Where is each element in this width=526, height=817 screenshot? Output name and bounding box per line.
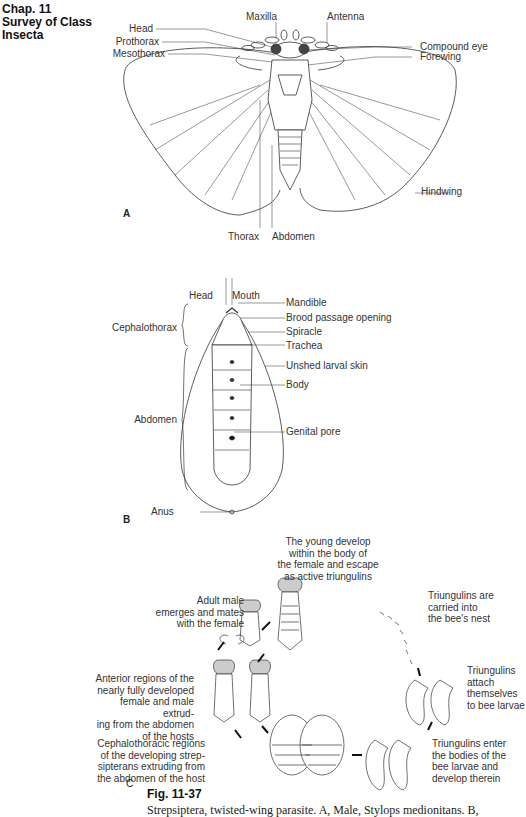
label-prothorax: Prothorax	[80, 36, 159, 48]
label-abdomen-b: Abdomen	[100, 414, 177, 426]
note-young-develop: The young develop within the body of the…	[268, 536, 388, 582]
female-insect-drawing	[181, 278, 285, 514]
note-triungulins-enter: Triungulins enter the bodies of the bee …	[432, 738, 526, 784]
label-cephalothorax: Cephalothorax	[100, 322, 177, 334]
label-head-a: Head	[100, 23, 153, 35]
note-attach: Triungulins attach themselves to bee lar…	[467, 665, 526, 711]
label-thorax: Thorax	[228, 231, 259, 243]
panel-letter-a: A	[123, 208, 130, 219]
label-mandible: Mandible	[286, 297, 327, 309]
label-body: Body	[286, 379, 309, 391]
figure-illustration	[0, 0, 526, 817]
figure-number: Fig. 11-37	[147, 787, 202, 801]
panel-letter-b: B	[123, 514, 130, 525]
label-spiracle: Spiracle	[286, 326, 322, 338]
label-unshed-larval-skin: Unshed larval skin	[286, 360, 368, 372]
label-mouth: Mouth	[232, 290, 260, 302]
label-antenna: Antenna	[327, 11, 364, 23]
note-anterior-regions: Anterior regions of the nearly fully dev…	[88, 673, 194, 742]
note-cephalothoracic: Cephalothoracic regions of the developin…	[85, 738, 205, 784]
label-forewing: Forewing	[420, 51, 461, 63]
label-anus: Anus	[151, 506, 174, 518]
label-mesothorax: Mesothorax	[80, 48, 165, 60]
male-insect-drawing	[124, 22, 457, 228]
label-genital-pore: Genital pore	[286, 426, 340, 438]
label-head-b: Head	[189, 290, 213, 302]
note-carried: Triungulins are carried into the bee's n…	[428, 590, 526, 625]
label-hindwing: Hindwing	[421, 186, 462, 198]
life-cycle-drawing	[214, 578, 454, 790]
note-adult-male: Adult male emerges and mates with the fe…	[152, 595, 244, 630]
label-brood-passage: Brood passage opening	[286, 312, 392, 324]
label-trachea: Trachea	[286, 340, 322, 352]
label-abdomen-a: Abdomen	[272, 231, 315, 243]
label-maxilla: Maxilla	[246, 11, 277, 23]
figure-caption: Strepsiptera, twisted-wing parasite. A, …	[147, 803, 479, 817]
panel-letter-c: C	[126, 778, 133, 789]
